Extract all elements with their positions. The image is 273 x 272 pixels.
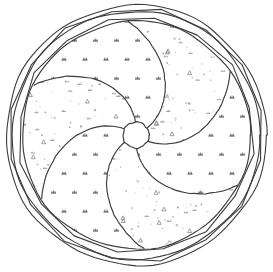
speckle-dot xyxy=(186,207,187,208)
speckle-dot xyxy=(39,106,41,108)
speckle-dot xyxy=(94,109,96,111)
speckle-dot xyxy=(182,228,183,229)
speckle-dot xyxy=(175,120,176,121)
speckle-dot xyxy=(176,73,178,75)
speckle-dot xyxy=(120,166,121,167)
speckle-dot xyxy=(213,56,215,58)
speckle-dot xyxy=(70,100,71,101)
speckle-dot xyxy=(118,170,119,171)
speckle-dot xyxy=(44,112,46,114)
speckle-dot xyxy=(211,194,212,195)
speckle-dot xyxy=(188,102,190,104)
speckle-dot xyxy=(162,106,164,108)
speckle-dot xyxy=(211,56,213,58)
speckle-dot xyxy=(131,228,133,230)
speckle-dot xyxy=(146,195,147,196)
speckle-dot xyxy=(50,115,51,116)
speckle-dot xyxy=(51,117,53,119)
speckle-dot xyxy=(169,64,170,65)
speckle-dot xyxy=(169,29,170,30)
speckle-dot xyxy=(177,226,179,228)
speckle-dot xyxy=(179,38,181,40)
speckle-dot xyxy=(70,122,72,124)
speckle-dot xyxy=(173,38,175,40)
speckle-dot xyxy=(191,77,193,79)
speckle-dot xyxy=(69,126,71,128)
speckle-dot xyxy=(158,191,160,193)
speckle-dot xyxy=(104,115,105,116)
speckle-dot xyxy=(47,82,48,83)
speckle-dot xyxy=(166,62,168,64)
speckle-dot xyxy=(59,145,61,147)
speckle-dot xyxy=(177,206,179,208)
speckle-dot xyxy=(47,164,49,166)
speckle-dot xyxy=(91,85,93,87)
speckle-dot xyxy=(138,166,139,167)
speckle-dot xyxy=(105,98,106,99)
speckle-dot xyxy=(36,100,38,102)
speckle-dot xyxy=(195,205,197,207)
speckle-dot xyxy=(109,175,111,177)
speckle-dot xyxy=(135,192,136,193)
speckle-dot xyxy=(189,111,190,112)
speckle-dot xyxy=(175,52,176,53)
speckle-dot xyxy=(194,112,195,113)
speckle-dot xyxy=(55,134,56,135)
speckle-dot xyxy=(202,63,203,64)
speckle-dot xyxy=(137,227,138,228)
speckle-dot xyxy=(117,158,118,159)
speckle-dot xyxy=(151,224,152,225)
speckle-dot xyxy=(136,180,138,182)
speckle-dot xyxy=(29,132,30,133)
speckle-dot xyxy=(36,163,38,165)
speckle-dot xyxy=(80,125,82,127)
speckle-dot xyxy=(119,149,121,151)
speckle-dot xyxy=(142,187,143,188)
speckle-dot xyxy=(168,98,170,100)
speckle-dot xyxy=(54,117,56,119)
speckle-dot xyxy=(41,134,43,136)
speckle-dot xyxy=(214,91,216,93)
speckle-dot xyxy=(149,188,150,189)
speckle-dot xyxy=(44,158,46,160)
speckle-dot xyxy=(176,224,178,226)
speckle-dot xyxy=(213,110,214,111)
speckle-dot xyxy=(129,120,131,122)
speckle-dot xyxy=(81,82,82,83)
speckle-dot xyxy=(203,73,205,75)
speckle-dot xyxy=(162,228,164,230)
speckle-dot xyxy=(162,53,164,55)
speckle-dot xyxy=(162,133,164,135)
speckle-dot xyxy=(174,240,175,241)
speckle-dot xyxy=(207,210,208,211)
speckle-dot xyxy=(192,109,194,111)
speckle-dot xyxy=(190,204,192,206)
speckle-dot xyxy=(164,219,166,221)
speckle-dot xyxy=(161,210,162,211)
speckle-dot xyxy=(175,118,177,120)
speckle-dot xyxy=(153,209,155,211)
speckle-dot xyxy=(195,40,196,41)
speckle-dot xyxy=(132,235,134,237)
speckle-dot xyxy=(40,168,41,169)
speckle-dot xyxy=(94,115,95,116)
speckle-dot xyxy=(157,217,159,219)
speckle-dot xyxy=(185,102,187,104)
speckle-dot xyxy=(210,79,212,81)
speckle-dot xyxy=(78,103,80,105)
figure-root: Pinwheel Rosette Line Drawing Hand-drawn… xyxy=(0,0,273,272)
speckle-dot xyxy=(156,204,157,205)
speckle-dot xyxy=(24,124,26,126)
speckle-dot xyxy=(171,122,172,123)
speckle-dot xyxy=(200,203,202,205)
speckle-dot xyxy=(155,120,157,122)
speckle-dot xyxy=(125,190,127,192)
speckle-dot xyxy=(193,67,194,68)
speckle-dot xyxy=(172,216,174,218)
speckle-dot xyxy=(115,169,116,170)
speckle-dot xyxy=(156,201,158,203)
speckle-dot xyxy=(166,94,168,96)
speckle-dot xyxy=(180,127,182,129)
speckle-dot xyxy=(206,211,207,212)
speckle-dot xyxy=(99,83,101,85)
